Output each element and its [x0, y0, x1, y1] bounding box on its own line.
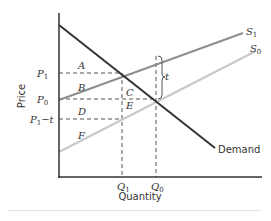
- s1-label: S1: [246, 26, 257, 39]
- area-label-e: E: [125, 100, 134, 111]
- price-label-p1: P1: [36, 68, 48, 81]
- bottom-divider: [8, 210, 261, 211]
- demand-label: Demand: [218, 144, 260, 155]
- area-label-c: C: [126, 87, 134, 98]
- price-label-p1-minus-t: P1−t: [29, 114, 55, 127]
- supply-demand-diagram: t Price Quantity P1 P0 P1−t Q1 Q0 S1 S0 …: [0, 0, 271, 221]
- price-label-p0: P0: [36, 94, 48, 107]
- area-label-f: F: [77, 130, 86, 141]
- y-axis-label: Price: [16, 84, 27, 108]
- area-label-b: B: [77, 82, 85, 93]
- area-label-a: A: [77, 60, 85, 71]
- tax-label: t: [165, 71, 170, 82]
- area-label-d: D: [77, 106, 86, 117]
- supply-curve-s1: [59, 33, 243, 100]
- guide-lines: [59, 56, 156, 177]
